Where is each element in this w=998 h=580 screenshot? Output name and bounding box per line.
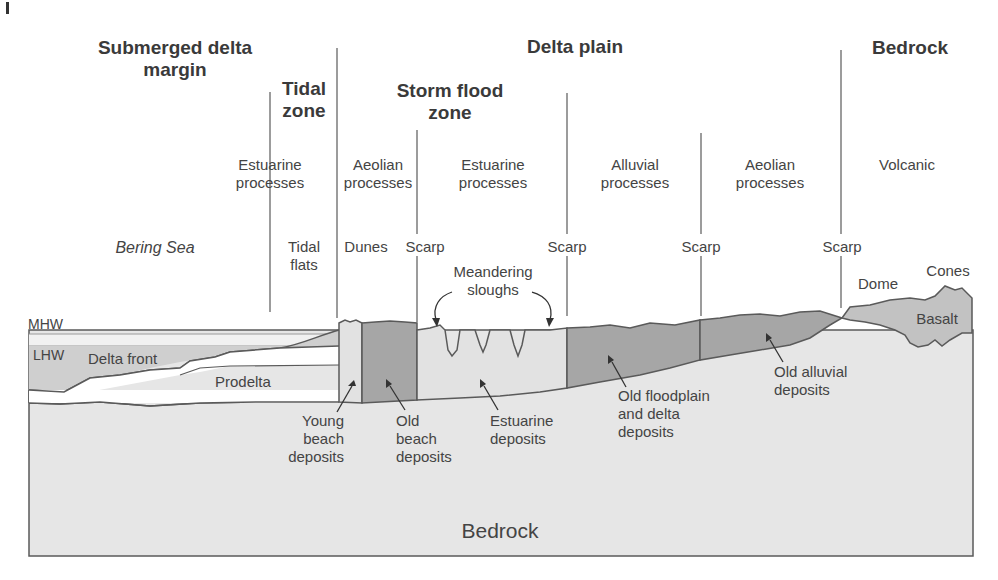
label-scarp-4: Scarp [815, 238, 869, 256]
label-young-beach-deposits: Young beach deposits [272, 412, 344, 466]
header-submerged-line1: Submerged delta [80, 37, 270, 59]
label-bedrock: Bedrock [440, 518, 560, 543]
header-submerged-delta-margin: Submerged delta margin [80, 37, 270, 81]
mhw-band [29, 334, 339, 346]
label-basalt: Basalt [905, 310, 969, 328]
header-storm-line1: Storm flood [385, 80, 515, 102]
deposit-line: deposits [618, 423, 738, 441]
prodelta-fill-lower [29, 390, 339, 403]
deposit-line: Old alluvial [774, 363, 874, 381]
label-bering-sea: Bering Sea [100, 238, 210, 257]
old-beach-deposits [362, 321, 417, 403]
header-tidal-line1: Tidal [272, 78, 336, 100]
process-line2: processes [338, 174, 418, 192]
deposit-line: Young [272, 412, 344, 430]
header-storm-flood-zone: Storm flood zone [385, 80, 515, 124]
label-dome: Dome [848, 275, 908, 293]
process-line2: processes [720, 174, 820, 192]
process-line1: Estuarine [218, 156, 322, 174]
tidal-flats-line2: flats [272, 256, 336, 274]
process-aeolian-1: Aeolian processes [338, 156, 418, 192]
header-tidal-zone: Tidal zone [272, 78, 336, 122]
deposit-line: and delta [618, 405, 738, 423]
label-dunes: Dunes [338, 238, 394, 256]
process-estuarine-2: Estuarine processes [440, 156, 546, 192]
deposit-line: beach [272, 430, 344, 448]
label-lhw: LHW [33, 347, 83, 364]
deposit-line: Old [396, 412, 476, 430]
header-storm-line2: zone [385, 102, 515, 124]
process-alluvial: Alluvial processes [585, 156, 685, 192]
label-mhw: MHW [28, 316, 78, 333]
deposit-line: Old floodplain [618, 387, 738, 405]
arrowhead [546, 318, 554, 327]
meandering-line2: sloughs [438, 281, 548, 299]
deposit-line: deposits [272, 448, 344, 466]
deposit-line: deposits [396, 448, 476, 466]
process-line2: processes [585, 174, 685, 192]
young-beach-deposits [339, 320, 362, 403]
tidal-flats-line1: Tidal [272, 238, 336, 256]
process-volcanic: Volcanic [862, 156, 952, 174]
label-delta-front: Delta front [88, 350, 188, 368]
deposit-line: deposits [490, 430, 580, 448]
process-line2: processes [440, 174, 546, 192]
deposit-line: deposits [774, 381, 874, 399]
process-line1: Volcanic [862, 156, 952, 174]
corner-tick [6, 2, 9, 14]
header-submerged-line2: margin [80, 59, 270, 81]
process-line1: Estuarine [440, 156, 546, 174]
header-tidal-line2: zone [272, 100, 336, 122]
label-old-beach-deposits: Old beach deposits [396, 412, 476, 466]
label-meandering-sloughs: Meandering sloughs [438, 263, 548, 299]
label-scarp-3: Scarp [674, 238, 728, 256]
label-prodelta: Prodelta [215, 373, 295, 391]
label-old-floodplain-deposits: Old floodplain and delta deposits [618, 387, 738, 441]
deposit-line: beach [396, 430, 476, 448]
label-old-alluvial-deposits: Old alluvial deposits [774, 363, 874, 399]
label-scarp-1: Scarp [398, 238, 452, 256]
process-line2: processes [218, 174, 322, 192]
process-aeolian-2: Aeolian processes [720, 156, 820, 192]
estuarine-deposits [417, 325, 567, 400]
header-delta-plain: Delta plain [500, 36, 650, 58]
process-estuarine-1: Estuarine processes [218, 156, 322, 192]
process-line1: Aeolian [338, 156, 418, 174]
label-scarp-2: Scarp [540, 238, 594, 256]
label-cones: Cones [918, 262, 978, 280]
meandering-line1: Meandering [438, 263, 548, 281]
label-estuarine-deposits: Estuarine deposits [490, 412, 580, 448]
deposit-line: Estuarine [490, 412, 580, 430]
process-line1: Alluvial [585, 156, 685, 174]
label-tidal-flats: Tidal flats [272, 238, 336, 274]
process-line1: Aeolian [720, 156, 820, 174]
header-bedrock: Bedrock [855, 37, 965, 59]
